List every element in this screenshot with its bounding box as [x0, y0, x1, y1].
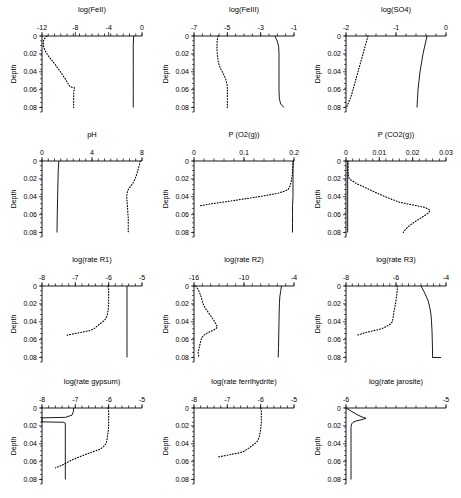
series-dotted: [196, 286, 218, 358]
y-tick-label: 0: [185, 158, 189, 165]
y-axis-label: Depth: [162, 315, 170, 334]
panel-title: log(rate R1): [72, 255, 112, 264]
y-axis-label: Depth: [162, 65, 170, 84]
y-tick-label: 0.06: [175, 211, 189, 218]
x-tick-label: -8: [39, 396, 45, 403]
panel-title: log(SO4): [381, 5, 412, 14]
panel-log-feiii: log(FeIII)-7-5-3-100.020.040.060.08Depth: [152, 0, 306, 124]
y-tick-label: 0.02: [175, 422, 189, 429]
y-tick-label: 0.08: [175, 476, 189, 483]
x-tick-label: -2: [343, 24, 349, 31]
x-tick-label: -4: [291, 274, 297, 281]
y-tick-label: 0.06: [327, 336, 341, 343]
y-tick-label: 0.04: [327, 318, 341, 325]
panel-log-so4: log(SO4)-2-1000.020.040.060.08Depth: [304, 0, 458, 124]
y-tick-label: 0.02: [175, 175, 189, 182]
x-tick-label: -7: [224, 396, 230, 403]
series-dotted: [217, 36, 227, 108]
y-tick-label: 0.06: [23, 211, 37, 218]
y-tick-label: 0.08: [23, 476, 37, 483]
x-tick-label: -5: [224, 24, 230, 31]
y-tick-label: 0.06: [175, 458, 189, 465]
x-tick-label: -8: [39, 274, 45, 281]
depth-profile-figure: log(FeII)-12-8-4000.020.040.060.08Depthl…: [0, 0, 461, 498]
x-tick-label: -4: [443, 274, 449, 281]
x-tick-label: -6: [106, 274, 112, 281]
panel-title: log(FeIII): [229, 5, 260, 14]
series-dotted: [348, 161, 430, 233]
panel-title: P (O2(g)): [228, 130, 260, 139]
x-tick-label: -5: [291, 396, 297, 403]
x-tick-label: 0: [192, 149, 196, 156]
x-tick-label: -5: [139, 274, 145, 281]
y-tick-label: 0: [185, 33, 189, 40]
y-tick-label: 0.06: [23, 336, 37, 343]
x-tick-label: -1: [393, 24, 399, 31]
y-tick-label: 0.02: [23, 422, 37, 429]
x-tick-label: 0.03: [439, 149, 453, 156]
y-axis-label: Depth: [10, 437, 18, 456]
series-solid: [42, 408, 74, 480]
panel-p-co2: P (CO2(g))00.010.020.0300.020.040.060.08…: [304, 125, 458, 249]
panel-title: log(rate jarosite): [369, 377, 424, 386]
series-solid: [293, 161, 294, 233]
y-tick-label: 0.04: [23, 193, 37, 200]
x-tick-label: -16: [189, 274, 199, 281]
series-solid: [346, 408, 366, 480]
x-tick-label: -8: [72, 24, 78, 31]
x-tick-label: -6: [393, 274, 399, 281]
x-tick-label: -12: [37, 24, 47, 31]
y-tick-label: 0.08: [23, 104, 37, 111]
y-tick-label: 0.04: [175, 318, 189, 325]
y-tick-label: 0.02: [327, 175, 341, 182]
y-axis-label: Depth: [314, 190, 322, 209]
y-tick-label: 0.04: [175, 440, 189, 447]
series-solid: [278, 286, 281, 358]
x-tick-label: 0.02: [406, 149, 420, 156]
x-tick-label: -8: [343, 274, 349, 281]
y-tick-label: 0.08: [327, 354, 341, 361]
series-solid: [417, 36, 427, 108]
x-tick-label: 0: [40, 149, 44, 156]
y-tick-label: 0: [337, 405, 341, 412]
panel-title: log(FeII): [78, 5, 106, 14]
y-tick-label: 0.08: [175, 104, 189, 111]
y-tick-label: 0: [33, 33, 37, 40]
y-axis-label: Depth: [10, 315, 18, 334]
x-tick-label: -7: [72, 274, 78, 281]
panel-ph: pH04800.020.040.060.08Depth: [0, 125, 154, 249]
y-tick-label: 0.08: [23, 354, 37, 361]
y-tick-label: 0.04: [23, 440, 37, 447]
y-tick-label: 0.02: [327, 422, 341, 429]
panel-title: pH: [87, 130, 97, 139]
x-tick-label: -6: [343, 396, 349, 403]
y-axis-label: Depth: [10, 190, 18, 209]
y-tick-label: 0: [33, 158, 37, 165]
y-tick-label: 0.08: [23, 229, 37, 236]
y-tick-label: 0.08: [327, 476, 341, 483]
panel-log-rate-r1: log(rate R1)-8-7-6-500.020.040.060.08Dep…: [0, 250, 154, 374]
y-tick-label: 0.08: [175, 229, 189, 236]
y-tick-label: 0: [337, 283, 341, 290]
x-tick-label: 4: [90, 149, 94, 156]
y-tick-label: 0: [33, 283, 37, 290]
x-tick-label: 0: [140, 24, 144, 31]
x-tick-label: -7: [72, 396, 78, 403]
y-tick-label: 0.02: [175, 300, 189, 307]
panel-log-rate-gypsum: log(rate gypsum)-8-7-6-500.020.040.060.0…: [0, 372, 154, 496]
y-tick-label: 0: [337, 33, 341, 40]
y-tick-label: 0.04: [175, 193, 189, 200]
y-axis-label: Depth: [314, 315, 322, 334]
y-tick-label: 0.02: [327, 300, 341, 307]
panel-log-rate-jarosite: log(rate jarosite)-6-500.020.040.060.08D…: [304, 372, 458, 496]
x-tick-label: -10: [239, 274, 249, 281]
y-tick-label: 0.08: [327, 104, 341, 111]
series-dotted: [127, 161, 140, 233]
y-tick-label: 0.02: [327, 50, 341, 57]
y-tick-label: 0.04: [23, 318, 37, 325]
y-tick-label: 0.06: [327, 458, 341, 465]
y-tick-label: 0: [337, 158, 341, 165]
y-tick-label: 0.04: [327, 68, 341, 75]
panel-log-rate-r2: log(rate R2)-16-10-400.020.040.060.08Dep…: [152, 250, 306, 374]
x-tick-label: -8: [191, 396, 197, 403]
